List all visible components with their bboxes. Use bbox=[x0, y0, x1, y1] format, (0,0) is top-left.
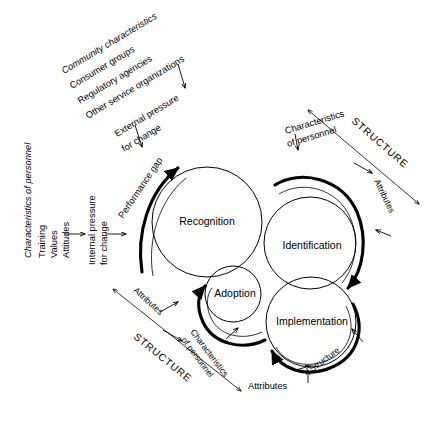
characteristics-arrow-bottom-left bbox=[163, 330, 182, 341]
internal-pressure-label: Internal pressure for change bbox=[87, 195, 109, 265]
external-pressure-arrow bbox=[178, 64, 185, 88]
performance-gap-label: Performance gap bbox=[116, 155, 164, 220]
attitudes-item: Attitudes bbox=[61, 221, 71, 258]
attributes-label-bottom-left: Attributes bbox=[132, 285, 166, 317]
attributes-arrow-top-right bbox=[354, 163, 372, 173]
label-identification: Identification bbox=[283, 239, 342, 251]
values-item: Values bbox=[49, 230, 59, 258]
training-item: Training bbox=[37, 225, 47, 258]
internal-pressure-line2: for change bbox=[99, 221, 109, 265]
characteristics-of-personnel-heading: Characteristics of personnel bbox=[23, 142, 33, 258]
structure-label-top-right: STRUCTURE bbox=[350, 115, 411, 170]
attributes-label-implementation: Attributes bbox=[248, 381, 288, 391]
attributes-label-top-right: Attributes bbox=[372, 177, 397, 214]
label-recognition: Recognition bbox=[179, 215, 235, 227]
attributes-pointer-top-right bbox=[376, 230, 391, 236]
identification-arc bbox=[275, 177, 363, 288]
stage-circles bbox=[152, 167, 356, 367]
internal-pressure-line1: Internal pressure bbox=[87, 195, 97, 265]
diagram-canvas: Recognition Identification Adoption Impl… bbox=[0, 0, 435, 427]
organizational-change-diagram: Recognition Identification Adoption Impl… bbox=[0, 0, 435, 427]
external-pressure-label: External pressure for change bbox=[113, 93, 181, 154]
internal-inputs-block: Characteristics of personnel Training Va… bbox=[23, 142, 71, 258]
label-implementation: Implementation bbox=[276, 315, 348, 327]
label-adoption: Adoption bbox=[214, 287, 256, 299]
